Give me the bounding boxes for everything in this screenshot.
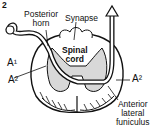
anterior-lateral-funiculus-label: Anterior lateral funiculus	[116, 100, 150, 127]
posterior-horn-label: Posterior horn	[24, 10, 58, 28]
spinal-cord-label: Spinal cord	[62, 46, 88, 64]
synapse-label: Synapse	[65, 14, 98, 23]
spinal-cord-line2: cord	[62, 55, 88, 64]
figure-number: 2	[2, 1, 7, 10]
a1-label: A¹	[7, 58, 17, 67]
a2-left-label: A²	[8, 75, 18, 84]
a2-right-label: A²	[132, 74, 142, 83]
posterior-horn-line2: horn	[24, 19, 58, 28]
alf-line3: funiculus	[116, 118, 150, 127]
